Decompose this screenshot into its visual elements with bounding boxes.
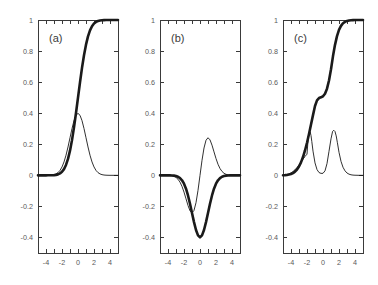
x-tick-label: 2 <box>337 258 341 267</box>
y-tick-label: 0 <box>151 171 155 180</box>
x-tick-label: 4 <box>353 258 357 267</box>
x-tick-label: 2 <box>92 258 96 267</box>
panel-label: (c) <box>294 32 307 44</box>
y-tick-label: 1 <box>29 16 33 25</box>
x-tick-label: -4 <box>288 258 294 267</box>
x-tick-label: 4 <box>230 258 234 267</box>
y-tick-label: 0 <box>29 171 33 180</box>
x-tick-label: 0 <box>321 258 325 267</box>
panel-label: (a) <box>49 32 62 44</box>
x-tick-label: 0 <box>76 258 80 267</box>
y-tick-label: -0.2 <box>266 202 278 211</box>
plot-panel-c: -4-202410.80.60.40.20-0.2-0.4(c) <box>245 0 371 285</box>
panel-label: (b) <box>171 32 184 44</box>
curve-density <box>38 113 118 175</box>
y-tick-label: 0 <box>274 171 278 180</box>
axis-frame <box>160 20 240 253</box>
y-tick-label: -0.4 <box>143 233 155 242</box>
axis-frame <box>283 20 363 253</box>
y-tick-label: 0.6 <box>268 78 278 87</box>
y-tick-label: 0.2 <box>268 140 278 149</box>
figure-container: -4-202410.80.60.40.20-0.2-0.4(a) -4-2024… <box>0 0 378 285</box>
y-tick-label: -0.2 <box>21 202 33 211</box>
x-tick-label: -2 <box>181 258 187 267</box>
y-tick-label: 1 <box>274 16 278 25</box>
x-tick-label: 2 <box>214 258 218 267</box>
y-tick-label: 0.4 <box>145 109 155 118</box>
y-tick-label: 0.2 <box>145 140 155 149</box>
y-tick-label: 0.8 <box>268 47 278 56</box>
y-tick-label: -0.4 <box>21 233 33 242</box>
x-tick-label: -4 <box>165 258 171 267</box>
y-tick-label: 0.4 <box>23 109 33 118</box>
x-tick-label: -4 <box>43 258 49 267</box>
plot-svg: -4-202410.80.60.40.20-0.2-0.4(c) <box>245 0 371 285</box>
plot-svg: -4-202410.80.60.40.20-0.2-0.4(b) <box>122 0 248 285</box>
plot-panel-b: -4-202410.80.60.40.20-0.2-0.4(b) <box>122 0 248 285</box>
y-tick-label: 0.2 <box>23 140 33 149</box>
curve-negative-density <box>160 175 240 237</box>
y-tick-label: 0.6 <box>23 78 33 87</box>
x-tick-label: -2 <box>304 258 310 267</box>
curve-bimodal-density <box>283 130 363 175</box>
plot-svg: -4-202410.80.60.40.20-0.2-0.4(a) <box>0 0 126 285</box>
plot-panel-a: -4-202410.80.60.40.20-0.2-0.4(a) <box>0 0 126 285</box>
y-tick-label: 0.6 <box>145 78 155 87</box>
y-tick-label: 0.8 <box>145 47 155 56</box>
x-tick-label: 0 <box>198 258 202 267</box>
y-tick-label: 1 <box>151 16 155 25</box>
y-tick-label: 0.8 <box>23 47 33 56</box>
x-tick-label: 4 <box>108 258 112 267</box>
y-tick-label: 0.4 <box>268 109 278 118</box>
axis-frame <box>38 20 118 253</box>
y-tick-label: -0.2 <box>143 202 155 211</box>
y-tick-label: -0.4 <box>266 233 278 242</box>
x-tick-label: -2 <box>59 258 65 267</box>
